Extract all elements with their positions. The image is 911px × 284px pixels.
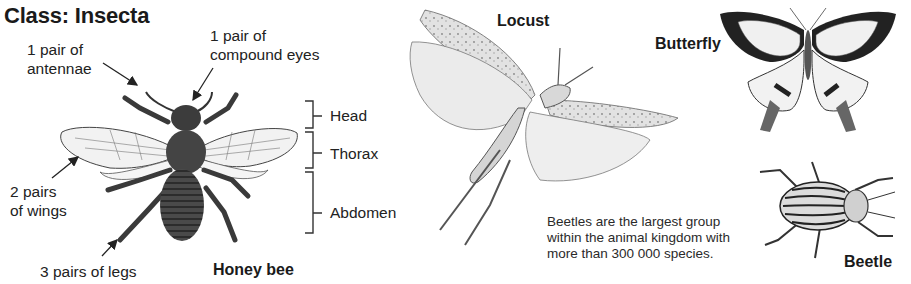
insect-illustrations (0, 0, 911, 284)
antennae-label: 1 pair of antennae (27, 40, 92, 78)
legs-label: 3 pairs of legs (40, 262, 137, 281)
honey-bee-name: Honey bee (213, 261, 294, 279)
abdomen-label: Abdomen (330, 203, 396, 222)
legs-arrow (102, 240, 117, 256)
locust-drawing (410, 10, 678, 245)
wings-arrow (52, 157, 78, 178)
head-label: Head (330, 106, 367, 125)
thorax-label: Thorax (330, 144, 378, 163)
compound-eyes-label: 1 pair of compound eyes (210, 26, 319, 64)
page-title: Class: Insecta (4, 3, 149, 29)
eyes-arrow (193, 68, 213, 100)
beetle-drawing (760, 162, 895, 258)
body-part-brackets (305, 101, 322, 233)
beetle-name: Beetle (844, 253, 892, 271)
locust-name: Locust (497, 12, 549, 30)
antennae-arrow (103, 63, 137, 85)
honey-bee-drawing (61, 92, 298, 241)
butterfly-drawing (720, 8, 896, 132)
butterfly-name: Butterfly (655, 35, 721, 53)
beetle-fact: Beetles are the largest group within the… (547, 214, 730, 262)
wings-label: 2 pairs of wings (10, 182, 67, 220)
